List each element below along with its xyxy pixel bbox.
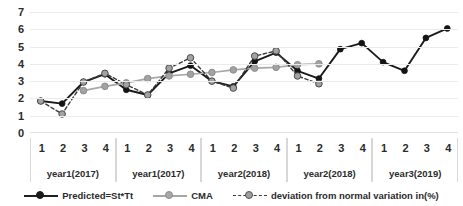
gridline: [30, 47, 458, 48]
x-axis-tick: 4: [188, 142, 194, 154]
data-point: [102, 83, 109, 90]
x-axis-tick: 1: [210, 142, 216, 154]
gridline: [30, 98, 458, 99]
legend-dot: [245, 191, 253, 199]
x-axis-tick: 3: [424, 142, 430, 154]
x-axis-tick: 2: [146, 142, 152, 154]
category-group: 1234year2(2018): [201, 138, 287, 182]
gridline: [30, 29, 458, 30]
y-axis: 01234567: [0, 0, 30, 140]
data-point: [187, 55, 194, 62]
legend-marker-icon: [153, 190, 187, 200]
x-axis-tick: 1: [295, 142, 301, 154]
x-axis-tick: 1: [381, 142, 387, 154]
x-axis-tick: 1: [124, 142, 130, 154]
y-axis-tick-1: 1: [18, 110, 24, 122]
data-point: [251, 53, 258, 60]
chart-legend: Predicted=St*TtCMAdeviation from normal …: [0, 184, 463, 206]
chart-container: 01234567 1234year1(2017)1234year1(2017)1…: [0, 0, 463, 206]
data-point: [166, 73, 173, 80]
data-point: [123, 81, 130, 88]
x-axis-tick: 2: [317, 142, 323, 154]
x-axis-tick: 2: [402, 142, 408, 154]
x-axis-tick: 3: [338, 142, 344, 154]
data-point: [209, 69, 216, 76]
legend-item-pred[interactable]: Predicted=St*Tt: [24, 190, 133, 201]
x-axis-tick: 2: [231, 142, 237, 154]
y-axis-tick-7: 7: [18, 6, 24, 18]
data-point: [80, 87, 87, 94]
category-tick-row: 1234: [117, 138, 201, 162]
data-point: [144, 92, 151, 99]
x-axis-tick: 4: [360, 142, 366, 154]
legend-item-cma[interactable]: CMA: [153, 190, 213, 201]
legend-dot: [36, 191, 44, 199]
category-group: 1234year1(2017): [30, 138, 116, 182]
gridline: [30, 116, 458, 117]
data-point: [359, 40, 365, 46]
series-0: [38, 26, 450, 107]
data-point: [230, 85, 237, 92]
legend-label: deviation from normal variation in(%): [271, 190, 439, 201]
y-axis-tick-4: 4: [18, 58, 24, 70]
legend-dot: [165, 191, 173, 199]
data-point: [294, 73, 301, 80]
y-axis-tick-3: 3: [18, 75, 24, 87]
data-point: [166, 65, 173, 72]
data-point: [251, 65, 258, 72]
data-point: [187, 71, 194, 78]
plot-wrapper: 01234567: [0, 0, 463, 140]
x-axis-tick: 3: [167, 142, 173, 154]
data-point: [59, 101, 65, 107]
series-line: [84, 64, 319, 91]
data-point: [230, 67, 237, 74]
category-tick-row: 1234: [288, 138, 372, 162]
y-axis-tick-2: 2: [18, 92, 24, 104]
x-axis-tick: 4: [274, 142, 280, 154]
y-axis-tick-6: 6: [18, 23, 24, 35]
x-axis-tick: 4: [103, 142, 109, 154]
category-group-label: year3(2019): [373, 168, 457, 179]
data-point: [423, 35, 429, 41]
category-group: 1234year1(2017): [116, 138, 202, 182]
category-tick-row: 1234: [373, 138, 457, 162]
x-axis-tick: 4: [445, 142, 451, 154]
category-group-label: year2(2018): [202, 168, 286, 179]
x-axis-tick: 1: [39, 142, 45, 154]
data-point: [273, 48, 280, 55]
data-point: [273, 64, 280, 71]
y-axis-tick-0: 0: [18, 127, 24, 139]
gridline: [30, 81, 458, 82]
gridline: [30, 64, 458, 65]
category-group-label: year1(2017): [117, 168, 201, 179]
gridline: [30, 12, 458, 13]
category-axis: 1234year1(2017)1234year1(2017)1234year2(…: [30, 138, 458, 182]
series-1: [80, 61, 322, 94]
data-point: [402, 68, 408, 74]
legend-label: CMA: [191, 190, 213, 201]
series-2: [37, 48, 322, 118]
category-tick-row: 1234: [202, 138, 286, 162]
plot-area: [30, 12, 458, 133]
x-axis-tick: 3: [253, 142, 259, 154]
legend-item-dev[interactable]: deviation from normal variation in(%): [233, 190, 439, 201]
y-axis-tick-5: 5: [18, 41, 24, 53]
x-axis-tick: 3: [81, 142, 87, 154]
series-line: [41, 28, 448, 103]
category-group-label: year1(2017): [31, 168, 115, 179]
data-point: [102, 70, 109, 77]
x-axis-tick: 2: [60, 142, 66, 154]
category-group-label: year2(2018): [288, 168, 372, 179]
legend-marker-icon: [24, 190, 58, 200]
legend-marker-icon: [233, 190, 267, 200]
category-tick-row: 1234: [31, 138, 115, 162]
legend-label: Predicted=St*Tt: [62, 190, 133, 201]
category-group: 1234year2(2018): [287, 138, 373, 182]
category-group: 1234year3(2019): [372, 138, 458, 182]
